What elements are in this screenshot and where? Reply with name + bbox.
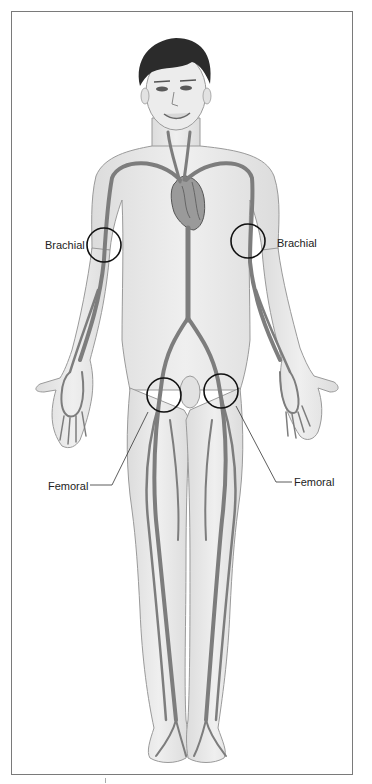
anatomy-illustration bbox=[0, 0, 372, 784]
femoral-right-leader bbox=[236, 406, 292, 482]
page-tick-mark bbox=[105, 778, 106, 783]
label-femoral-right: Femoral bbox=[294, 476, 334, 488]
label-femoral-left: Femoral bbox=[48, 480, 88, 492]
label-brachial-right: Brachial bbox=[277, 237, 317, 249]
head bbox=[139, 38, 211, 130]
label-brachial-left: Brachial bbox=[45, 239, 85, 251]
pelvis-detail bbox=[180, 376, 200, 408]
